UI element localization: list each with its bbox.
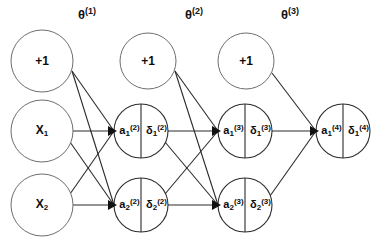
activation-label: a1(3) xyxy=(223,124,243,139)
neural-network-diagram: θ(1)θ(2)θ(3) +1X1X2+1a1(2)δ1(2)a2(2)δ2(2… xyxy=(0,0,386,247)
activation-label: a1(2) xyxy=(119,124,139,139)
bias-label: +1 xyxy=(35,55,49,67)
connection-line xyxy=(272,73,316,131)
delta-label: δ1(3) xyxy=(250,124,271,139)
connection-line xyxy=(165,142,218,205)
connection-line xyxy=(70,142,114,205)
theta-label-theta2: θ(2) xyxy=(185,6,203,22)
delta-label: δ2(2) xyxy=(146,198,167,213)
connection-line xyxy=(72,71,114,205)
delta-label: δ1(2) xyxy=(146,124,167,139)
connection-line xyxy=(72,71,114,131)
bias-label: +1 xyxy=(239,55,253,67)
connection-edges xyxy=(70,71,316,205)
delta-label: δ2(3) xyxy=(250,198,271,213)
input-label: X2 xyxy=(36,198,48,212)
theta-label-theta3: θ(3) xyxy=(281,6,299,22)
connection-line xyxy=(175,71,218,131)
bias-label: +1 xyxy=(141,55,155,67)
delta-label: δ1(4) xyxy=(348,124,369,139)
input-label: X1 xyxy=(36,124,48,138)
connection-line xyxy=(165,131,218,194)
connection-line xyxy=(270,131,316,196)
activation-label: a2(2) xyxy=(119,198,139,213)
activation-label: a1(4) xyxy=(321,124,341,139)
activation-label: a2(3) xyxy=(223,198,243,213)
theta-label-theta1: θ(1) xyxy=(78,6,96,22)
